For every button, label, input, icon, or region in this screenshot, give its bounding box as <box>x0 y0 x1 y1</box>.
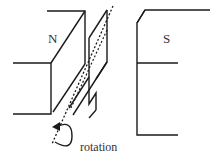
rotation-arrow <box>52 122 72 146</box>
north-magnet <box>13 11 85 114</box>
south-magnet <box>137 10 210 135</box>
generator-diagram: N S rotation <box>0 0 219 165</box>
rotation-label: rotation <box>80 140 117 155</box>
arrowhead-icon <box>52 122 60 131</box>
rotation-axis <box>52 6 113 144</box>
south-pole-label: S <box>163 31 170 47</box>
north-pole-label: N <box>48 31 57 47</box>
